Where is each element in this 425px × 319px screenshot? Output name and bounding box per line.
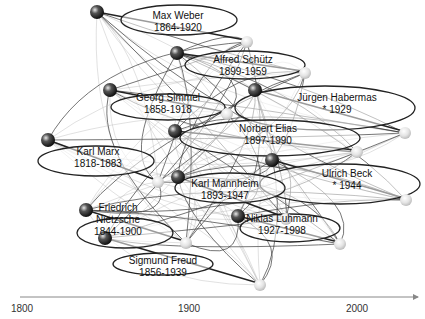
person-name-elias: Norbert Elias	[239, 123, 297, 134]
person-name-nietzsche: Friedrich	[99, 202, 138, 213]
person-name-schuetz: Alfred Schütz	[213, 54, 272, 65]
person-dates-beck: * 1944	[333, 180, 362, 191]
death-node-freud[interactable]	[254, 279, 266, 291]
death-node-weber[interactable]	[241, 36, 253, 48]
birth-node-marx[interactable]	[41, 133, 55, 147]
person-dates-freud: 1856-1939	[139, 267, 187, 278]
axis-tick-2000: 2000	[346, 303, 369, 314]
birth-node-beck[interactable]	[265, 153, 279, 167]
person-name-freud: Sigmund Freud	[129, 255, 197, 266]
death-node-elias[interactable]	[351, 146, 363, 158]
birth-node-simmel[interactable]	[103, 83, 117, 97]
sociologist-timeline-diagram: Max Weber1864-1920Alfred Schütz1899-1959…	[0, 0, 425, 319]
death-node-habermas[interactable]	[399, 127, 411, 139]
death-node-simmel[interactable]	[221, 108, 233, 120]
axis-tick-1900: 1900	[178, 303, 201, 314]
birth-node-nietzsche[interactable]	[79, 203, 93, 217]
axis-tick-1800: 1800	[11, 303, 34, 314]
birth-node-mannheim[interactable]	[171, 170, 185, 184]
person-name-weber: Max Weber	[153, 10, 205, 21]
person-dates-simmel: 1858-1918	[144, 104, 192, 115]
person-name-mannheim: Karl Mannheim	[191, 178, 258, 189]
person-name-habermas: Jürgen Habermas	[297, 92, 376, 103]
person-name-beck: Ulrich Beck	[322, 168, 374, 179]
birth-node-weber[interactable]	[90, 5, 104, 19]
person-dates-schuetz: 1899-1959	[219, 66, 267, 77]
birth-node-habermas[interactable]	[248, 83, 262, 97]
person-dates-marx: 1818-1883	[74, 158, 122, 169]
birth-node-schuetz[interactable]	[170, 46, 184, 60]
person-dates-luhmann: 1927-1998	[258, 225, 306, 236]
death-node-marx[interactable]	[152, 176, 164, 188]
person-dates-weber: 1864-1920	[154, 22, 202, 33]
death-node-luhmann[interactable]	[334, 238, 346, 250]
timeline-axis: 1800 1900 2000	[11, 297, 418, 314]
person-dates-nietzsche: 1844-1900	[94, 226, 142, 237]
death-node-beck[interactable]	[400, 194, 412, 206]
person-dates-habermas: * 1929	[323, 104, 352, 115]
person-dates-elias: 1897-1990	[244, 135, 292, 146]
person-name-nietzsche: Nietzsche	[96, 214, 140, 225]
person-dates-mannheim: 1893-1947	[201, 190, 249, 201]
death-node-nietzsche[interactable]	[180, 237, 192, 249]
person-name-luhmann: Niklas Luhmann	[246, 213, 318, 224]
person-name-marx: Karl Marx	[77, 146, 120, 157]
birth-node-luhmann[interactable]	[231, 209, 245, 223]
person-name-simmel: Georg Simmel	[136, 92, 200, 103]
birth-node-elias[interactable]	[168, 124, 182, 138]
death-node-schuetz[interactable]	[299, 67, 311, 79]
